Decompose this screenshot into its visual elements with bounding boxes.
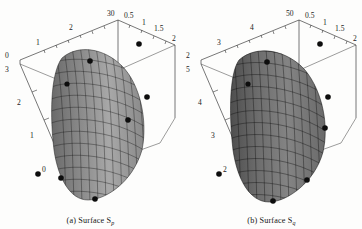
tick-label: 2 bbox=[353, 34, 357, 43]
ticks-back-left-sq bbox=[225, 26, 286, 53]
tick-label: 1 bbox=[36, 38, 40, 47]
surface-mesh-sq bbox=[225, 38, 333, 206]
corner-label: 30 bbox=[107, 9, 115, 18]
tick-label: 2 bbox=[172, 34, 176, 43]
tick-label: 5 bbox=[186, 65, 190, 74]
tick-label: 2 bbox=[69, 23, 73, 32]
tick-label: 1.5 bbox=[335, 24, 345, 33]
plot-area-sp: 0 1 2 30 0.5 1 1.5 2 3 2 1 0 bbox=[0, 0, 181, 206]
tick-label: 4 bbox=[198, 98, 202, 107]
tick-label: 2 bbox=[17, 98, 21, 107]
caption-text: (b) Surface S bbox=[247, 216, 292, 225]
tick-label: 0.5 bbox=[124, 11, 134, 20]
tick-label: 1 bbox=[142, 18, 146, 27]
panel-surface-sp: 0 1 2 30 0.5 1 1.5 2 3 2 1 0 (a) Surface… bbox=[0, 0, 181, 229]
tick-label: 3 bbox=[211, 131, 215, 140]
caption-subscript: p bbox=[111, 219, 114, 225]
tick-label: 4 bbox=[250, 23, 254, 32]
tick-label: 1.5 bbox=[154, 24, 164, 33]
ticks-back-left-sp bbox=[44, 26, 105, 53]
caption-text: (a) Surface S bbox=[67, 216, 112, 225]
tick-label: 3 bbox=[5, 65, 9, 74]
corner-label: 50 bbox=[286, 9, 294, 18]
figure-container: 0 1 2 30 0.5 1 1.5 2 3 2 1 0 (a) Surface… bbox=[0, 0, 362, 229]
tick-label: 1 bbox=[30, 131, 34, 140]
caption-sq: (b) Surface Sq bbox=[181, 216, 362, 226]
tick-label: 2 bbox=[223, 165, 227, 174]
caption-sp: (a) Surface Sp bbox=[0, 216, 181, 226]
panel-surface-sq: 2 3 4 50 0.5 1 1.5 2 5 4 3 2 (b) Surface… bbox=[181, 0, 362, 229]
caption-subscript: q bbox=[293, 219, 296, 225]
tick-label: 0.5 bbox=[305, 11, 315, 20]
tick-label: 0 bbox=[5, 51, 9, 60]
tick-label: 0 bbox=[42, 165, 46, 174]
tick-label: 3 bbox=[217, 38, 221, 47]
plot-area-sq: 2 3 4 50 0.5 1 1.5 2 5 4 3 2 bbox=[181, 0, 362, 206]
tick-label: 2 bbox=[186, 51, 190, 60]
tick-label: 1 bbox=[323, 18, 327, 27]
